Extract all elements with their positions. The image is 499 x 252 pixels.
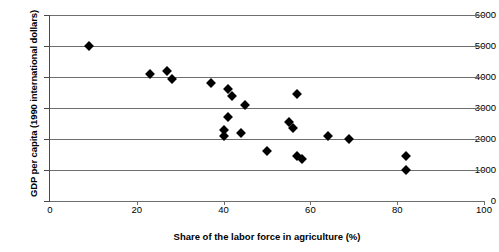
y-tick-mark bbox=[44, 201, 49, 202]
x-tick-label: 0 bbox=[35, 205, 65, 215]
x-tick-mark bbox=[224, 201, 225, 205]
x-tick-mark bbox=[137, 201, 138, 205]
x-tick-mark bbox=[397, 201, 398, 205]
x-tick-label: 100 bbox=[469, 205, 499, 215]
data-point bbox=[223, 112, 233, 122]
gridline bbox=[50, 108, 484, 109]
data-point bbox=[167, 74, 177, 84]
x-tick-label: 60 bbox=[295, 205, 325, 215]
y-tick-mark bbox=[44, 77, 49, 78]
x-tick-mark bbox=[484, 201, 485, 205]
data-point bbox=[288, 123, 298, 133]
y-tick-mark bbox=[44, 108, 49, 109]
x-tick-label: 20 bbox=[122, 205, 152, 215]
x-tick-mark bbox=[310, 201, 311, 205]
gridline bbox=[50, 15, 484, 16]
data-point bbox=[236, 128, 246, 138]
y-tick-mark bbox=[44, 15, 49, 16]
gridline bbox=[50, 139, 484, 140]
x-tick-label: 80 bbox=[382, 205, 412, 215]
y-tick-mark bbox=[44, 170, 49, 171]
data-point bbox=[345, 134, 355, 144]
gridline bbox=[50, 170, 484, 171]
data-point bbox=[206, 78, 216, 88]
y-tick-mark bbox=[44, 46, 49, 47]
data-point bbox=[84, 41, 94, 51]
gridline bbox=[50, 46, 484, 47]
x-axis-line bbox=[50, 201, 485, 202]
x-tick-label: 40 bbox=[209, 205, 239, 215]
y-tick-mark bbox=[44, 139, 49, 140]
data-point bbox=[401, 151, 411, 161]
x-axis-title: Share of the labor force in agriculture … bbox=[50, 231, 484, 242]
gridline bbox=[50, 77, 484, 78]
y-axis-title: GDP per capita (1990 international dolla… bbox=[28, 9, 39, 199]
data-point bbox=[401, 165, 411, 175]
data-point bbox=[262, 146, 272, 156]
data-point bbox=[292, 89, 302, 99]
plot-area bbox=[50, 15, 484, 201]
